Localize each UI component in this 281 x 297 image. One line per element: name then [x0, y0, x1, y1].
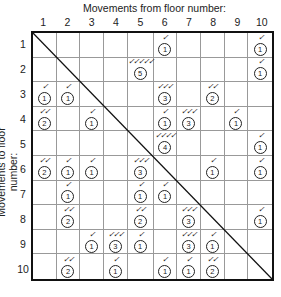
tick-marks: ✓: [162, 256, 167, 264]
matrix-cell: [177, 131, 201, 156]
tick-marks: ✓: [89, 157, 94, 165]
column-label: 4: [104, 16, 128, 30]
matrix-cell: ✓1: [154, 107, 178, 132]
matrix-cell: ✓✓✓3: [177, 107, 201, 132]
tick-marks: ✓✓✓: [108, 231, 123, 239]
matrix-cell: [104, 82, 128, 107]
matrix-cell: [248, 230, 272, 255]
tick-marks: ✓: [258, 132, 263, 140]
matrix-cell: [33, 254, 57, 279]
column-label: 8: [201, 16, 225, 30]
tick-marks: ✓✓✓: [157, 83, 172, 91]
matrix-cell: ✓1: [33, 82, 57, 107]
matrix-cell: ✓✓2: [128, 205, 154, 230]
row-label: 7: [16, 181, 30, 206]
matrix-cell: ✓1: [128, 181, 154, 206]
tick-marks: ✓: [258, 206, 263, 214]
count-circle: 1: [206, 240, 219, 253]
matrix-cell: [33, 58, 57, 83]
tick-marks: ✓: [89, 108, 94, 116]
matrix-cell: [177, 58, 201, 83]
matrix-cell: [104, 58, 128, 83]
matrix-cell: ✓1: [128, 230, 154, 255]
tick-marks: ✓: [258, 34, 263, 42]
matrix-cell: ✓✓✓3: [104, 230, 128, 255]
matrix-cell: ✓✓✓3: [154, 82, 178, 107]
count-circle: 5: [134, 67, 147, 80]
count-circle: 1: [158, 265, 171, 278]
matrix-cell: [225, 156, 249, 181]
matrix-cell: [80, 131, 104, 156]
matrix-cell: [57, 58, 81, 83]
matrix-cell: [225, 58, 249, 83]
count-circle: 2: [61, 265, 74, 278]
matrix-cell: ✓1: [201, 156, 225, 181]
matrix-cell: ✓1: [104, 254, 128, 279]
matrix-cell: ✓✓2: [201, 254, 225, 279]
matrix-cell: ✓1: [80, 156, 104, 181]
matrix-cell: [201, 33, 225, 58]
tick-marks: ✓: [89, 231, 94, 239]
matrix-cell: [57, 33, 81, 58]
matrix-cell: [201, 107, 225, 132]
tick-marks: ✓: [65, 83, 70, 91]
tick-marks: ✓✓✓: [133, 157, 148, 165]
column-label: 10: [250, 16, 274, 30]
matrix-cell: ✓1: [248, 58, 272, 83]
count-circle: 1: [254, 67, 267, 80]
tick-marks: ✓: [65, 181, 70, 189]
matrix-cell: [104, 156, 128, 181]
matrix-cell: ✓✓✓3: [177, 205, 201, 230]
matrix-cell: [225, 131, 249, 156]
row-label: 8: [16, 206, 30, 231]
column-label: 6: [152, 16, 176, 30]
matrix-cell: ✓1: [177, 254, 201, 279]
matrix-cell: [177, 82, 201, 107]
count-circle: 2: [61, 215, 74, 228]
matrix-cell: [201, 131, 225, 156]
tick-marks: ✓: [42, 83, 47, 91]
count-circle: 1: [109, 265, 122, 278]
matrix-cell: [104, 131, 128, 156]
count-circle: 1: [61, 166, 74, 179]
matrix-cell: ✓1: [248, 131, 272, 156]
count-circle: 1: [254, 43, 267, 56]
count-circle: 2: [206, 92, 219, 105]
count-circle: 3: [182, 215, 195, 228]
matrix-cell: ✓✓2: [57, 205, 81, 230]
matrix-cell: [248, 181, 272, 206]
count-circle: 1: [85, 166, 98, 179]
tick-marks: ✓: [210, 157, 215, 165]
tick-marks: ✓✓: [39, 108, 49, 116]
matrix-cell: ✓1: [201, 230, 225, 255]
column-label: 3: [80, 16, 104, 30]
count-circle: 2: [38, 117, 51, 130]
matrix-cell: [177, 33, 201, 58]
column-label: 9: [225, 16, 249, 30]
matrix-cell: [80, 181, 104, 206]
matrix-cell: ✓✓✓✓4: [154, 131, 178, 156]
matrix-cell: [33, 33, 57, 58]
matrix-cell: ✓✓✓✓✓5: [128, 58, 154, 83]
matrix-cell: ✓1: [248, 205, 272, 230]
tick-marks: ✓✓✓✓: [155, 132, 175, 140]
matrix-cell: ✓1: [248, 156, 272, 181]
matrix-cell: [33, 230, 57, 255]
matrix-cell: ✓✓2: [201, 82, 225, 107]
column-label: 1: [31, 16, 55, 30]
count-circle: 1: [61, 190, 74, 203]
row-label: 3: [16, 81, 30, 106]
matrix-cell: [225, 82, 249, 107]
row-label: 6: [16, 156, 30, 181]
tick-marks: ✓✓: [39, 157, 49, 165]
matrix-cell: ✓✓2: [57, 254, 81, 279]
matrix-cell: [225, 230, 249, 255]
matrix-cell: [225, 181, 249, 206]
count-circle: 1: [182, 265, 195, 278]
column-label: 7: [177, 16, 201, 30]
count-circle: 1: [134, 190, 147, 203]
tick-marks: ✓✓✓: [181, 108, 196, 116]
matrix-cell: [57, 107, 81, 132]
matrix-cell: ✓✓✓3: [177, 230, 201, 255]
count-circle: 1: [85, 117, 98, 130]
